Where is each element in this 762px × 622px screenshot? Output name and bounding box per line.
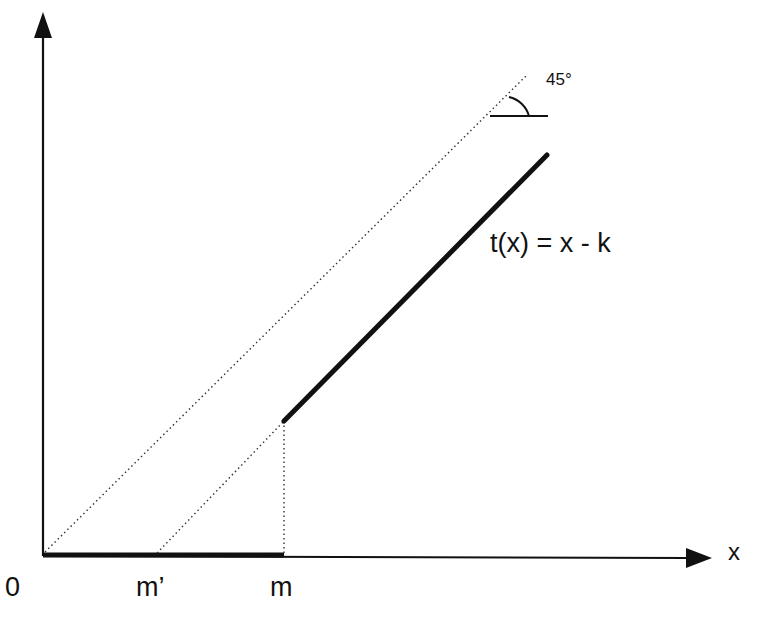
extension-to-m-prime [157, 421, 284, 553]
origin-label: 0 [5, 572, 20, 602]
tick-label-m: m [270, 572, 293, 602]
tick-label-m-prime: m’ [136, 572, 165, 602]
angle-marker [490, 97, 548, 116]
tax-function-line [284, 155, 547, 421]
x-axis [43, 548, 712, 568]
y-axis-arrow-icon [34, 12, 52, 38]
forty-five-degree-line [45, 74, 528, 552]
function-label: t(x) = x - k [490, 228, 611, 258]
angle-label: 45° [546, 70, 572, 89]
x-axis-label: x [728, 538, 740, 565]
x-axis-arrow-icon [686, 548, 712, 568]
tax-function-diagram: 45° t(x) = x - k 0 m’ m x [0, 0, 762, 622]
angle-arc-icon [509, 97, 529, 116]
y-axis [34, 12, 52, 556]
